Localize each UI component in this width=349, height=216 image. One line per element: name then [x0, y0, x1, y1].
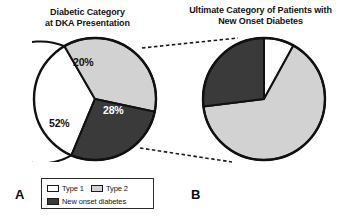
chart-title-a: Diabetic Category at DKA Presentation [0, 7, 175, 29]
figure-two-pie-charts: Diabetic Category at DKA Presentation 20… [0, 0, 349, 216]
pie-a-label-type1: 52% [49, 117, 69, 129]
legend-swatch-type2-icon [91, 185, 103, 192]
pie-a-label-new-onset: 28% [103, 104, 123, 116]
panel-b: Ultimate Category of Patients with New O… [172, 0, 349, 216]
pie-a-label-type2: 20% [73, 56, 93, 68]
pie-a-svg [32, 36, 158, 162]
legend-a-label-type1: Type 1 [62, 184, 84, 193]
legend-a: Type 1 Type 2 New onset diabetes [41, 178, 154, 209]
panel-letter-b: B [191, 187, 200, 202]
legend-a-label-new-onset: New onset diabetes [62, 197, 126, 206]
chart-title-b: Ultimate Category of Patients with New O… [172, 5, 349, 27]
pie-b-slice-unknown [203, 38, 264, 107]
panel-letter-a: A [15, 187, 24, 202]
legend-swatch-new-onset-icon [47, 198, 59, 205]
chart-title-a-line2: at DKA Presentation [0, 18, 175, 29]
pie-chart-a [32, 36, 158, 162]
chart-title-a-line1: Diabetic Category [50, 7, 125, 17]
panel-a: Diabetic Category at DKA Presentation 20… [0, 0, 175, 216]
legend-a-item-new-onset: New onset diabetes [47, 197, 126, 206]
legend-a-row-1: Type 1 Type 2 [47, 182, 148, 194]
pie-b-svg [201, 36, 327, 162]
legend-swatch-type1-icon [47, 185, 59, 192]
legend-a-item-type2: Type 2 [91, 184, 128, 193]
legend-a-item-type1: Type 1 [47, 184, 84, 193]
pie-chart-b [201, 36, 327, 162]
chart-title-b-line2: New Onset Diabetes [172, 16, 349, 27]
chart-title-b-line1: Ultimate Category of Patients with [189, 5, 332, 15]
legend-a-label-type2: Type 2 [106, 184, 128, 193]
legend-a-row-2: New onset diabetes [47, 195, 148, 207]
